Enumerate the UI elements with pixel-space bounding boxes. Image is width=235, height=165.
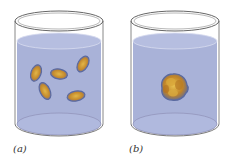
panel-label-b: (b)	[129, 143, 143, 154]
beaker-rim	[131, 11, 219, 31]
beaker-rim	[15, 11, 103, 31]
panel-label-a: (a)	[13, 143, 27, 154]
panel-b: (b)	[116, 0, 234, 165]
liquid-surface	[133, 33, 217, 49]
liquid-surface	[17, 33, 101, 49]
cell-clump	[162, 74, 188, 100]
beaker-bottom	[17, 113, 101, 135]
beaker-a	[0, 0, 118, 165]
panel-a: (a)	[0, 0, 118, 165]
beaker-b	[116, 0, 234, 165]
beaker-bottom	[133, 113, 217, 135]
